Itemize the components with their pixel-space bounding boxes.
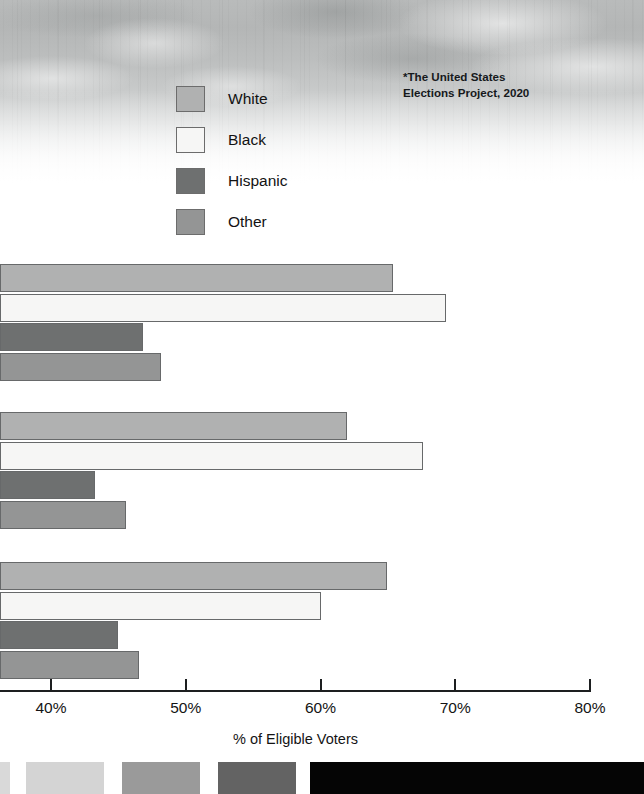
x-axis-tick-label-80: 80% [574,699,605,717]
bar-hispanic-group-3[interactable] [0,621,118,649]
legend-item-label: White [228,90,268,108]
legend-swatch-icon-white [176,86,205,112]
x-axis-tick-80 [589,679,591,690]
x-axis-tick-50 [185,679,187,690]
chart-plot-area [0,252,644,692]
chip-dark-gray [218,762,296,794]
bar-other-group-3[interactable] [0,651,139,679]
legend-item-white[interactable]: White [176,78,376,119]
x-axis-tick-40 [50,679,52,690]
legend-swatch-icon-hispanic [176,168,205,194]
chart-legend: WhiteBlackHispanicOther [176,78,376,242]
legend-item-other[interactable]: Other [176,201,376,242]
bar-white-group-3[interactable] [0,562,387,590]
legend-item-label: Other [228,213,267,231]
bar-hispanic-group-2[interactable] [0,471,95,499]
bar-black-group-2[interactable] [0,442,423,470]
x-axis-tick-70 [454,679,456,690]
chip-mid-gray [122,762,200,794]
x-axis-title: % of Eligible Voters [0,731,591,747]
chip-light-gray [26,762,104,794]
bar-black-group-1[interactable] [0,294,446,322]
legend-item-label: Black [228,131,266,149]
legend-swatch-icon-black [176,127,205,153]
bottom-color-swatch-strip [0,762,644,794]
legend-item-label: Hispanic [228,172,287,190]
bar-white-group-1[interactable] [0,264,393,292]
legend-item-black[interactable]: Black [176,119,376,160]
bar-other-group-1[interactable] [0,353,161,381]
x-axis-tick-label-40: 40% [35,699,66,717]
bar-black-group-3[interactable] [0,592,321,620]
chip-partial-left [0,762,10,794]
x-axis-tick-label-50: 50% [170,699,201,717]
legend-item-hispanic[interactable]: Hispanic [176,160,376,201]
bar-hispanic-group-1[interactable] [0,323,143,351]
x-axis-tick-label-60: 60% [305,699,336,717]
x-axis-tick-label-70: 70% [440,699,471,717]
bar-white-group-2[interactable] [0,412,347,440]
legend-swatch-icon-other [176,209,205,235]
chip-black [310,762,644,794]
source-note: *The United States Elections Project, 20… [403,69,529,100]
bar-other-group-2[interactable] [0,501,126,529]
x-axis-tick-60 [320,679,322,690]
x-axis-line [0,690,591,692]
